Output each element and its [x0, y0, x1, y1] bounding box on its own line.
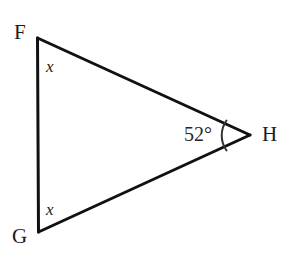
vertex-label-G: G [12, 226, 27, 247]
geometry-figure: F G H x x 52° [0, 0, 293, 253]
angle-label-F: x [46, 58, 54, 75]
vertex-label-F: F [14, 22, 26, 43]
triangle-diagram-svg [0, 0, 293, 253]
edge-FG [38, 38, 39, 232]
angle-label-H: 52° [184, 124, 212, 144]
vertex-label-H: H [262, 124, 277, 145]
angle-label-G: x [46, 201, 54, 218]
edge-GH [39, 135, 251, 232]
edge-FH [38, 38, 251, 135]
